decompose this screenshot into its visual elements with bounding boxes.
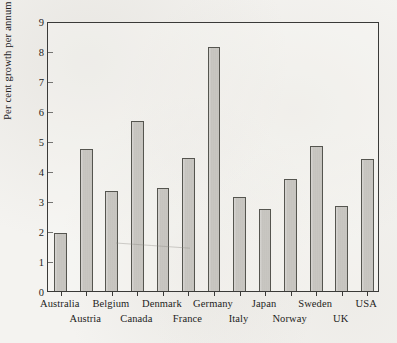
bar-uk [335, 206, 348, 292]
x-tick-mark-usa [367, 291, 368, 296]
x-axis-label-japan: Japan [252, 298, 276, 309]
y-tick-label-8: 8 [22, 47, 44, 58]
x-axis-label-canada: Canada [120, 313, 152, 324]
x-axis-label-denmark: Denmark [142, 298, 182, 309]
y-tick-label-0: 0 [22, 287, 44, 298]
x-axis-label-australia: Australia [40, 298, 79, 309]
bar-italy [233, 197, 246, 292]
plot-frame [47, 22, 379, 292]
bar-belgium [105, 191, 118, 292]
x-tick-mark-sweden [316, 291, 317, 296]
x-tick-mark-belgium [112, 291, 113, 296]
bar-australia [54, 233, 67, 292]
y-tick-label-6: 6 [22, 107, 44, 118]
y-tick-label-4: 4 [22, 167, 44, 178]
x-axis-label-italy: Italy [229, 313, 249, 324]
y-tick-label-1: 1 [22, 257, 44, 268]
x-tick-mark-canada [137, 291, 138, 296]
plot-area [48, 23, 378, 291]
x-tick-mark-denmark [163, 291, 164, 296]
bar-norway [284, 179, 297, 292]
x-tick-mark-germany [214, 291, 215, 296]
bar-germany [208, 47, 221, 292]
y-tick-label-3: 3 [22, 197, 44, 208]
y-axis-title: Per cent growth per annum [2, 0, 13, 120]
x-tick-mark-italy [240, 291, 241, 296]
bar-chart-figure: Per cent growth per annum 0123456789 Aus… [0, 0, 397, 343]
x-tick-mark-australia [61, 291, 62, 296]
y-tick-label-9: 9 [22, 17, 44, 28]
bar-denmark [157, 188, 170, 292]
x-axis-label-france: France [173, 313, 202, 324]
x-axis-label-norway: Norway [272, 313, 306, 324]
x-tick-mark-austria [86, 291, 87, 296]
x-axis-label-usa: USA [356, 298, 377, 309]
x-tick-mark-uk [342, 291, 343, 296]
x-tick-mark-france [188, 291, 189, 296]
x-axis-label-germany: Germany [193, 298, 233, 309]
x-axis-label-uk: UK [333, 313, 348, 324]
bar-austria [80, 149, 93, 292]
x-tick-mark-japan [265, 291, 266, 296]
bar-france [182, 158, 195, 292]
x-tick-mark-norway [291, 291, 292, 296]
x-axis-label-austria: Austria [69, 313, 101, 324]
bar-japan [259, 209, 272, 292]
bar-usa [361, 159, 374, 291]
y-tick-label-5: 5 [22, 137, 44, 148]
bar-sweden [310, 146, 323, 292]
y-tick-label-2: 2 [22, 227, 44, 238]
x-axis-label-belgium: Belgium [92, 298, 129, 309]
y-tick-label-7: 7 [22, 77, 44, 88]
bar-canada [131, 121, 144, 291]
x-axis-label-sweden: Sweden [298, 298, 332, 309]
